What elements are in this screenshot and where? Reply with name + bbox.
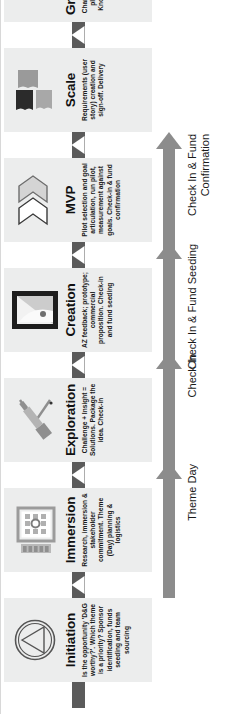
stage-title: Graduation (64, 0, 78, 15)
stage-description: Challenge + Insight = Solutions. Package… (81, 380, 106, 460)
connector-notch (72, 466, 85, 484)
stage-description: Requirements (user story) creation and s… (81, 50, 106, 130)
stage-immersion[interactable]: Immersion Research, immersion & stakehol… (4, 488, 152, 572)
stage-creation[interactable]: Creation AZ feedback; prototype; commerc… (4, 268, 152, 352)
edge-divider (0, 0, 1, 714)
stage-description: Change management plan. Hand-over. Knowl… (81, 0, 106, 20)
process-flow-diagram: Initiation Is the opportunity 'D&G worth… (0, 0, 243, 714)
milestone-check-in-fund-confirmation[interactable]: Check In & Fund Confirmation (156, 132, 238, 268)
connector-notch (72, 246, 85, 264)
stage-title: Creation (64, 283, 78, 336)
stage-initiation[interactable]: Initiation Is the opportunity 'D&G worth… (4, 598, 152, 682)
stage-mvp[interactable]: MVP Pilot selection and goal articulatio… (4, 158, 152, 242)
milestone-arrows: Theme Day Check In Check In & Fund Seedi… (156, 8, 240, 708)
arrow-shaft (163, 369, 175, 488)
arrow-icon (156, 132, 182, 268)
milestone-label: Check In & Fund Confirmation (186, 132, 211, 268)
building-blocks-icon (8, 50, 62, 130)
arrow-shaft (163, 259, 175, 378)
stage-title: Scale (64, 73, 78, 107)
connector-bar-start (4, 682, 152, 708)
flag-on-globe-icon (8, 0, 62, 20)
stage-description: AZ feedback; prototype; commercial propo… (81, 270, 115, 350)
stage-title: MVP (64, 186, 78, 215)
arrow-shaft (163, 479, 175, 598)
connector-bar-immersion-exploration (4, 462, 152, 488)
workshop-board-icon (8, 490, 62, 570)
arrow-head (156, 132, 182, 149)
stage-description: Is the opportunity 'D&G worthy?'. Which … (81, 600, 132, 680)
rotated-diagram-wrapper: Initiation Is the opportunity 'D&G worth… (0, 0, 243, 714)
stage-scale[interactable]: Scale Requirements (user story) creation… (4, 48, 152, 132)
triangle-in-circle-icon (8, 600, 62, 680)
stage-exploration[interactable]: Exploration Challenge + Insight = Soluti… (4, 378, 152, 462)
stage-description: Pilot selection and goal articulation, r… (81, 160, 123, 240)
framed-canvas-icon (8, 270, 62, 350)
telescope-icon (8, 380, 62, 460)
connector-notch (72, 356, 85, 374)
connector-bar-scale-graduation (4, 22, 152, 48)
connector-notch (72, 136, 85, 154)
connector-bar-fill (72, 682, 85, 708)
connector-bar-initiation-immersion (4, 572, 152, 598)
stage-title: Initiation (64, 613, 78, 667)
stage-graduation[interactable]: Graduation Change management plan. Hand-… (4, 0, 152, 22)
stage-description: Research, immersion & stakeholder commit… (81, 490, 123, 570)
stage-title: Exploration (64, 384, 78, 456)
connector-bar-exploration-creation (4, 352, 152, 378)
connector-bar-mvp-scale (4, 132, 152, 158)
stage-flow: Initiation Is the opportunity 'D&G worth… (4, 0, 152, 708)
connector-bar-creation-mvp (4, 242, 152, 268)
connector-notch (72, 26, 85, 44)
double-chevron-arrows-icon (8, 160, 62, 240)
stage-title: Immersion (64, 497, 78, 563)
connector-notch (72, 576, 85, 594)
arrow-shaft (163, 149, 175, 268)
